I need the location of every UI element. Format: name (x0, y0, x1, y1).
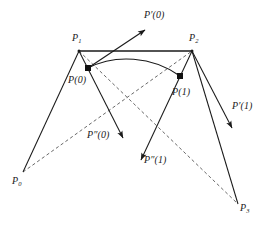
dashed-diagonals (23, 51, 238, 204)
control-polygon (23, 51, 238, 204)
vector-second-derivative-at-0 (79, 51, 123, 138)
label-p0-subscript: 0 (18, 180, 21, 187)
marker-p-at-1 (177, 73, 183, 79)
label-first-derivative-at-0: P′(0) (144, 10, 164, 20)
label-p2: P2 (189, 33, 198, 44)
marker-p-at-0 (85, 65, 91, 71)
polygon-edge-p0-p1 (23, 51, 79, 172)
label-p1: P1 (72, 33, 81, 44)
vector-first-derivative-at-0 (88, 30, 145, 68)
label-p3: P3 (240, 203, 249, 214)
label-p1-subscript: 1 (78, 37, 81, 44)
label-p2-subscript: 2 (195, 37, 198, 44)
label-p-at-0: P(0) (68, 75, 86, 85)
diagram-canvas (0, 0, 270, 227)
dashed-edge-p0-p2 (23, 51, 192, 172)
label-p3-subscript: 3 (246, 207, 249, 214)
dot-p1 (78, 50, 81, 53)
dot-p2 (191, 50, 194, 53)
label-first-derivative-at-1: P′(1) (232, 101, 252, 111)
bspline-diagram: P0 P1 P2 P3 P(0) P(1) P′(0) P′(1) P″(0) … (0, 0, 270, 227)
derivative-vectors (79, 30, 232, 160)
label-second-derivative-at-0: P″(0) (87, 130, 109, 140)
label-second-derivative-at-1: P″(1) (144, 155, 166, 165)
label-p-at-1: P(1) (172, 87, 190, 97)
label-p0: P0 (12, 176, 21, 187)
curve-endpoint-markers (85, 65, 183, 79)
dashed-edge-p1-p3 (79, 51, 238, 204)
polygon-edge-p2-p3 (192, 51, 238, 204)
